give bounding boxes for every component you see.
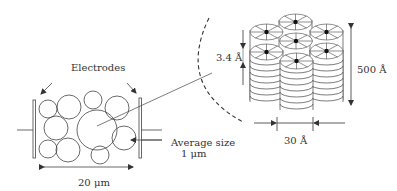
average-size-value: 1 μm [181,148,207,159]
width-label: 20 μm [78,177,110,188]
right-electrode-plate [139,98,142,158]
column-height-label: 500 Å [357,64,387,75]
magnification-arc [198,18,243,122]
disk-cap [310,43,343,59]
electrode-arrow-left [41,83,52,94]
diagram-canvas: Electrodes 20 μm Average size 1 μm 3.4 Å… [0,0,397,191]
column-stack [250,14,343,110]
disk-cap [250,44,283,60]
average-size-label: Average size [171,137,235,148]
disk-cap [280,33,313,49]
particle-cluster [39,91,136,164]
column-width-label: 30 Å [284,135,307,146]
electrode-arrow-right [127,83,136,93]
disk-cap [280,53,313,69]
diagram-svg [0,0,397,191]
layer-spacing-label: 3.4 Å [216,52,242,63]
disk-cap [310,24,343,40]
left-electrode-plate [33,100,36,158]
magnification-leader-line [97,73,212,126]
electrodes-label: Electrodes [71,62,125,73]
disk-cap [279,14,312,30]
disk-cap [250,24,283,40]
